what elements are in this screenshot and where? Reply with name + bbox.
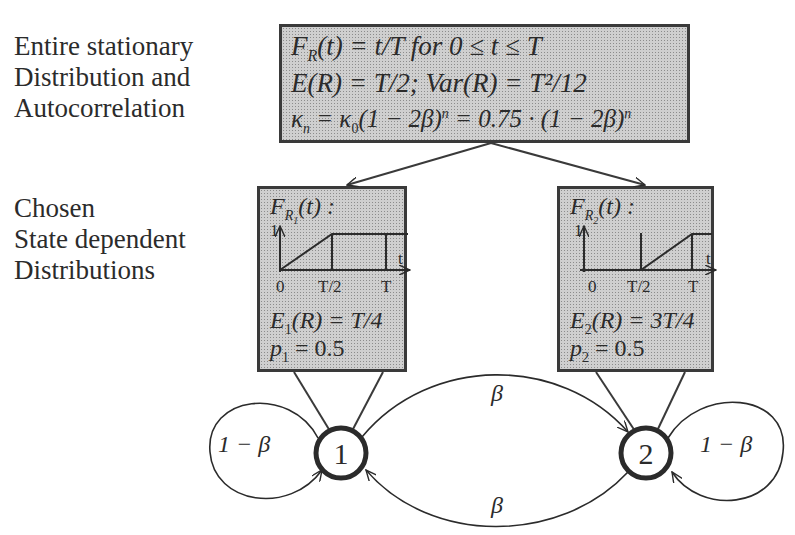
diagram-graphics: 1 t 0 T/2 T 1 t 0 T/2 T [0, 0, 795, 535]
state-1-plot-labels: 1 t 0 T/2 T [270, 221, 403, 296]
arrow-to-state-2-box [491, 143, 645, 185]
y-label: 1 [270, 221, 279, 240]
box-state-connectors [294, 372, 685, 431]
transition-2-to-1-label: β [490, 492, 503, 518]
transition-1-to-2-label: β [490, 380, 503, 406]
tick-label: 0 [588, 277, 597, 296]
state-2-cdf-plot [580, 226, 716, 272]
tick-label: T [688, 277, 699, 296]
tick-label: T [381, 277, 392, 296]
split-arrows [347, 143, 645, 185]
tick-label: T/2 [627, 277, 651, 296]
x-label: t [706, 249, 711, 268]
arrow-to-state-1-box [347, 143, 491, 185]
state-1-label: 1 [334, 437, 349, 470]
state-1-cdf-plot [280, 226, 410, 272]
y-label: 1 [574, 221, 583, 240]
x-label: t [398, 249, 403, 268]
self-loop-2-label: 1 − β [700, 431, 752, 457]
tick-label: 0 [276, 277, 285, 296]
state-2-plot-labels: 1 t 0 T/2 T [574, 221, 711, 296]
self-loop-1-label: 1 − β [218, 431, 270, 457]
cdf-curve [280, 234, 408, 270]
state-2-label: 2 [639, 437, 654, 470]
tick-label: T/2 [318, 277, 342, 296]
